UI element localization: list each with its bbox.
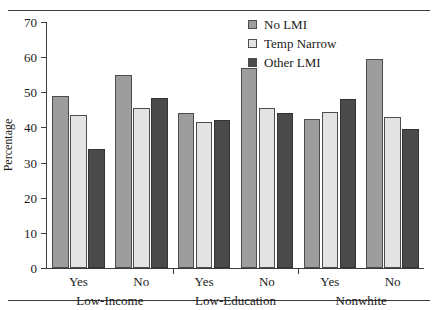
x-axis-line [46,268,424,269]
y-tick-mark [41,268,46,269]
y-tick-label: 10 [24,226,37,239]
legend-item: Other LMI [248,54,336,71]
legend-item-label: Temp Narrow [264,37,336,50]
bar [340,99,357,268]
bar [259,108,276,268]
bars-container [47,22,424,268]
bar [322,112,339,268]
legend-swatch-other-lmi [248,58,257,67]
bar [402,129,419,268]
bar [366,59,383,268]
legend-item-label: No LMI [264,18,307,31]
x-category-label: Yes [195,274,214,290]
y-tick-label: 70 [24,16,37,29]
legend-swatch-temp-narrow [248,39,257,48]
legend-item-label: Other LMI [264,56,321,69]
x-group-separator [173,268,174,274]
chart-legend: No LMITemp NarrowOther LMI [248,16,336,73]
bar [304,119,321,268]
y-axis-title: Percentage [1,119,16,172]
bar [52,96,69,268]
bar [88,149,105,268]
bar [133,108,150,268]
y-tick-label: 20 [24,191,37,204]
legend-swatch-no-lmi [248,20,257,29]
bar [178,113,195,268]
y-tick-mark [41,233,46,234]
x-category-label: No [133,274,149,290]
bar [277,113,294,268]
y-tick-mark [41,127,46,128]
bar [70,115,87,268]
bar [214,120,231,268]
bar [384,117,401,268]
plot-area: Percentage 010203040506070 YesNoLow-Inco… [46,22,424,268]
bar [196,122,213,268]
y-tick-label: 50 [24,86,37,99]
y-tick-label: 0 [31,262,38,275]
x-group-label: Nonwhite [336,293,387,309]
bar-chart-figure: Percentage 010203040506070 YesNoLow-Inco… [0,0,438,310]
x-category-label: Yes [69,274,88,290]
y-tick-label: 30 [24,156,37,169]
x-group-separator [298,268,299,274]
y-tick-mark [41,198,46,199]
bar [241,68,258,268]
x-group-label: Low-Income [76,293,143,309]
y-tick-mark [41,22,46,23]
y-tick-label: 60 [24,51,37,64]
legend-item: No LMI [248,16,336,33]
y-tick-mark [41,92,46,93]
y-tick-mark [41,163,46,164]
y-tick-mark [41,57,46,58]
x-category-label: No [259,274,275,290]
legend-item: Temp Narrow [248,35,336,52]
x-category-label: No [385,274,401,290]
bar [115,75,132,268]
top-rule [8,10,430,11]
x-category-label: Yes [320,274,339,290]
x-group-label: Low-Education [195,293,276,309]
bar [151,98,168,268]
y-tick-label: 40 [24,121,37,134]
